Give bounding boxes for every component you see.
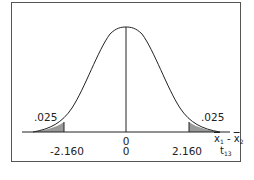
right-tail-area-label: .025 (201, 112, 224, 123)
t-axis-label: t13 (220, 145, 232, 159)
right-tail-shade (189, 122, 220, 132)
left-tail-area-label: .025 (34, 112, 57, 123)
left-critical-value-label: -2.160 (50, 146, 84, 157)
t-center-label: 0 (123, 146, 130, 157)
left-tail-shade (33, 122, 64, 132)
right-critical-value-label: 2.160 (172, 146, 202, 157)
